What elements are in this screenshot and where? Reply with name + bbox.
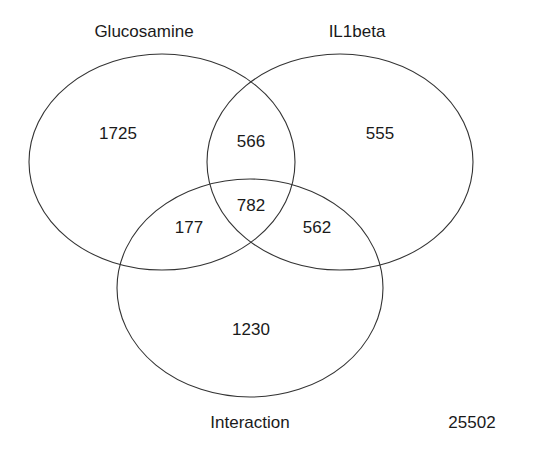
count-interaction-only: 1230 — [232, 320, 270, 339]
count-all-three: 782 — [237, 196, 265, 215]
count-glucosamine-il1beta: 566 — [237, 132, 265, 151]
count-il1beta-only: 555 — [366, 124, 394, 143]
glucosamine-ellipse — [29, 54, 295, 270]
venn-diagram: Glucosamine IL1beta Interaction 1725 555… — [0, 0, 534, 452]
count-glucosamine-interaction: 177 — [175, 218, 203, 237]
set-label-glucosamine: Glucosamine — [94, 22, 193, 41]
il1beta-ellipse — [207, 54, 473, 270]
count-il1beta-interaction: 562 — [303, 218, 331, 237]
count-outside: 25502 — [448, 413, 495, 432]
count-glucosamine-only: 1725 — [99, 124, 137, 143]
set-label-il1beta: IL1beta — [329, 22, 386, 41]
set-label-interaction: Interaction — [210, 413, 289, 432]
